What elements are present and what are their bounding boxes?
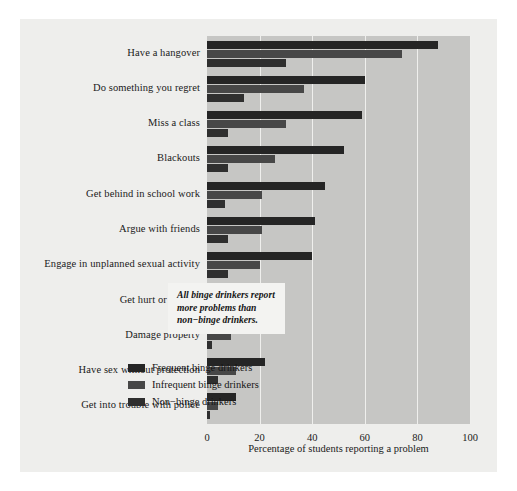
x-tick-label-60: 60	[360, 432, 371, 443]
x-tick-label-100: 100	[462, 432, 478, 443]
gridline-100	[470, 36, 471, 424]
bar	[207, 85, 304, 93]
annotation-line-1: All binge drinkers report	[177, 289, 277, 302]
bar	[207, 235, 228, 243]
legend-item: Frequent binge drinkers	[128, 359, 259, 376]
legend-item: Non−binge drinkers	[128, 393, 259, 410]
bar	[207, 270, 228, 278]
x-axis-title: Percentage of students reporting a probl…	[207, 443, 470, 454]
bar	[207, 182, 325, 190]
bar	[207, 200, 225, 208]
x-tick-label-0: 0	[204, 432, 209, 443]
bar	[207, 226, 262, 234]
bar	[207, 252, 312, 260]
legend-label: Frequent binge drinkers	[152, 362, 252, 373]
legend-swatch	[128, 398, 145, 406]
legend-label: Infrequent binge drinkers	[152, 379, 259, 390]
category-label: Miss a class	[148, 117, 200, 128]
bar	[207, 341, 212, 349]
bar	[207, 155, 275, 163]
bar	[207, 94, 244, 102]
x-tick-label-80: 80	[412, 432, 423, 443]
bar-group	[207, 217, 470, 243]
category-label: Get behind in school work	[86, 188, 200, 199]
x-tick-label-40: 40	[307, 432, 318, 443]
bar-group	[207, 252, 470, 278]
bar-group	[207, 182, 470, 208]
bar	[207, 41, 438, 49]
bar-group	[207, 146, 470, 172]
bar-group	[207, 111, 470, 137]
bar	[207, 261, 260, 269]
bar	[207, 120, 286, 128]
bar	[207, 146, 344, 154]
category-label: Have a hangover	[127, 47, 200, 58]
bar-group	[207, 41, 470, 67]
bar	[207, 111, 362, 119]
bar-group	[207, 76, 470, 102]
bar	[207, 59, 286, 67]
bar	[207, 191, 262, 199]
annotation-callout: All binge drinkers report more problems …	[168, 283, 285, 334]
bar	[207, 411, 210, 419]
x-tick-label-20: 20	[254, 432, 265, 443]
bar	[207, 76, 365, 84]
legend-swatch	[128, 364, 145, 372]
bar	[207, 217, 315, 225]
chart-legend: Frequent binge drinkersInfrequent binge …	[128, 359, 259, 410]
category-label: Argue with friends	[119, 223, 200, 234]
annotation-line-3: non−binge drinkers.	[177, 314, 277, 327]
legend-swatch	[128, 381, 145, 389]
chart-figure: Have a hangoverDo something you regretMi…	[20, 19, 497, 472]
category-label: Blackouts	[157, 152, 200, 163]
bar	[207, 50, 402, 58]
bar	[207, 164, 228, 172]
category-label: Engage in unplanned sexual activity	[44, 258, 200, 269]
annotation-line-2: more problems than	[177, 302, 277, 315]
bar	[207, 129, 228, 137]
legend-item: Infrequent binge drinkers	[128, 376, 259, 393]
category-label: Do something you regret	[93, 82, 200, 93]
legend-label: Non−binge drinkers	[152, 396, 236, 407]
